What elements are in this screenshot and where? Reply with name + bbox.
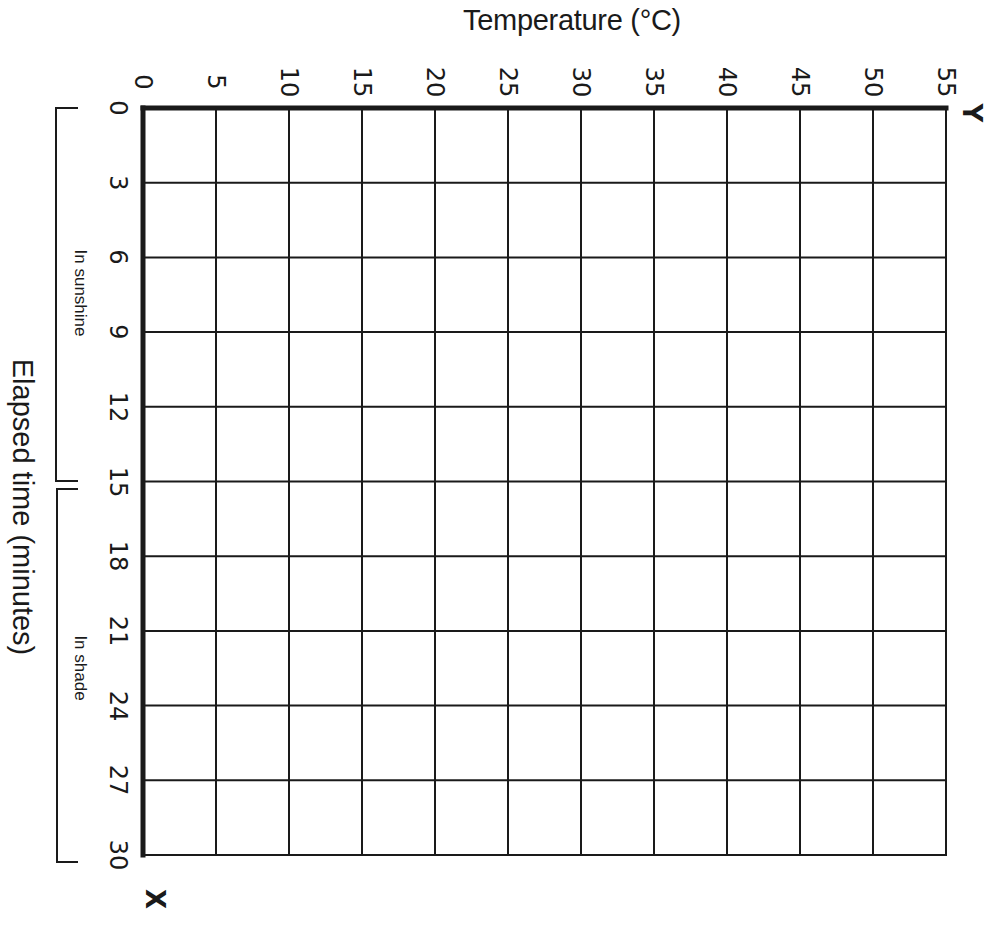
time-tick-24: 24 <box>104 690 132 721</box>
time-tick-12: 12 <box>104 392 132 423</box>
in-sunshine-label: In sunshine <box>70 250 90 337</box>
temperature-tick-20: 20 <box>421 67 449 98</box>
temperature-tick-50: 50 <box>859 67 887 98</box>
temperature-tick-0: 0 <box>129 74 157 89</box>
time-tick-3: 3 <box>104 175 132 190</box>
temperature-tick-10: 10 <box>275 67 303 98</box>
temperature-tick-30: 30 <box>567 67 595 98</box>
time-tick-21: 21 <box>104 616 132 647</box>
x-axis-marker: X <box>140 889 170 909</box>
time-tick-18: 18 <box>104 541 132 572</box>
temperature-tick-45: 45 <box>786 67 814 98</box>
temperature-tick-40: 40 <box>713 67 741 98</box>
elapsed-time-axis-title: Elapsed time (minutes) <box>6 359 39 656</box>
temperature-tick-55: 55 <box>932 67 960 98</box>
time-tick-0: 0 <box>104 100 132 115</box>
temperature-tick-35: 35 <box>640 67 668 98</box>
y-axis-marker: Y <box>957 104 987 123</box>
time-tick-27: 27 <box>104 765 132 796</box>
time-tick-9: 9 <box>104 324 132 339</box>
temperature-tick-15: 15 <box>348 67 376 98</box>
time-tick-30: 30 <box>104 840 132 871</box>
temperature-tick-25: 25 <box>494 67 522 98</box>
time-tick-15: 15 <box>104 466 132 497</box>
temperature-tick-5: 5 <box>202 74 230 89</box>
in-shade-label: In shade <box>70 635 90 700</box>
time-tick-6: 6 <box>104 250 132 265</box>
